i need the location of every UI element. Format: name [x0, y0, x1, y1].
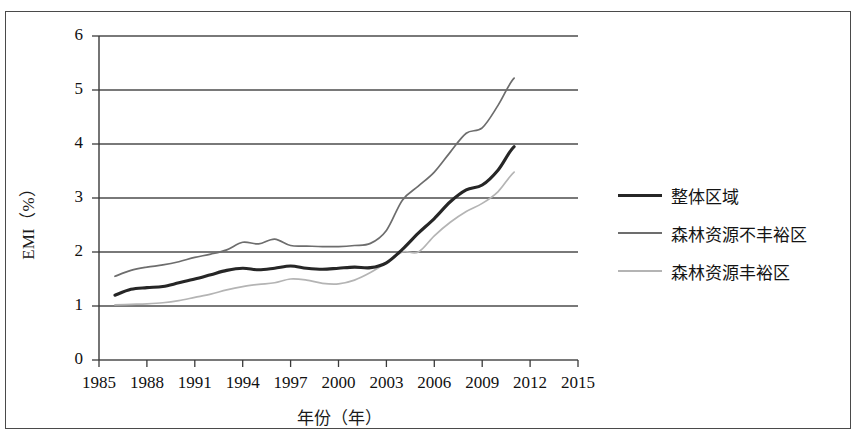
legend-label-1: 森林资源不丰裕区 — [671, 221, 807, 246]
x-tick-label: 1985 — [72, 373, 126, 393]
y-axis-title: EMI（%） — [14, 150, 39, 290]
legend-swatch-0 — [618, 194, 662, 197]
gridlines — [99, 36, 578, 360]
y-tick-label: 1 — [55, 295, 83, 315]
legend-item: 森林资源丰裕区 — [618, 252, 853, 290]
x-tick-label: 2000 — [312, 373, 366, 393]
data-series — [115, 78, 514, 305]
y-tick-label: 4 — [55, 133, 83, 153]
legend-label-2: 森林资源丰裕区 — [671, 259, 790, 284]
x-tick-label: 1991 — [168, 373, 222, 393]
chart-figure: 0123456 19851988199119941997200020032006… — [0, 0, 862, 447]
x-tick-label: 1994 — [216, 373, 270, 393]
y-tick-label: 3 — [55, 187, 83, 207]
x-tick-label: 2012 — [503, 373, 557, 393]
x-tick-label: 2015 — [551, 373, 605, 393]
legend-swatch-2 — [618, 270, 662, 272]
legend-item: 森林资源不丰裕区 — [618, 214, 853, 252]
x-tick-label: 1997 — [264, 373, 318, 393]
x-tick-label: 2009 — [455, 373, 509, 393]
x-tick-label: 2003 — [359, 373, 413, 393]
y-tick-label: 6 — [55, 25, 83, 45]
legend-label-0: 整体区域 — [671, 183, 739, 208]
legend-item: 整体区域 — [618, 176, 853, 214]
x-axis-title: 年份（年） — [99, 404, 579, 429]
chart-legend: 整体区域 森林资源不丰裕区 森林资源丰裕区 — [618, 176, 853, 290]
x-axis-ticks — [99, 360, 578, 367]
legend-swatch-1 — [618, 232, 662, 234]
y-axis-ticks — [92, 36, 99, 360]
x-tick-label: 1988 — [120, 373, 174, 393]
y-tick-label: 0 — [55, 349, 83, 369]
y-tick-label: 5 — [55, 79, 83, 99]
x-tick-label: 2006 — [407, 373, 461, 393]
y-tick-label: 2 — [55, 241, 83, 261]
